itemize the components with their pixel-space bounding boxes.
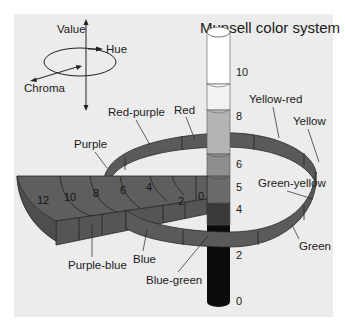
hue-label-blue-green: Blue-green (146, 274, 202, 286)
svg-text:12: 12 (37, 194, 49, 206)
svg-text:5: 5 (236, 181, 242, 193)
hue-label-purple: Purple (74, 138, 107, 150)
chroma-arrow-head-icon (76, 65, 82, 70)
axis-legend: Value Hue Chroma (24, 19, 127, 111)
chroma-label: Chroma (24, 82, 66, 94)
hue-label-yellow-red: Yellow-red (249, 93, 302, 105)
svg-text:2: 2 (178, 195, 184, 207)
hue-label-yellow: Yellow (293, 115, 327, 127)
hue-label-red-purple: Red-purple (108, 106, 165, 118)
svg-text:0: 0 (198, 190, 204, 202)
value-column (207, 27, 230, 307)
munsell-diagram: Value Hue Chroma Munsell color system 10… (0, 0, 345, 332)
svg-text:8: 8 (236, 110, 242, 122)
svg-text:6: 6 (120, 184, 126, 196)
value-scale: 10 8 6 5 4 2 0 (236, 66, 248, 307)
svg-text:0: 0 (236, 295, 242, 307)
value-arrow-down-icon (84, 105, 89, 111)
svg-text:8: 8 (93, 187, 99, 199)
svg-text:10: 10 (64, 191, 76, 203)
hue-label-green-yellow: Green-yellow (258, 177, 326, 189)
hue-label-red: Red (174, 104, 195, 116)
hue-label-purple-blue: Purple-blue (68, 259, 127, 271)
svg-text:4: 4 (146, 181, 152, 193)
svg-text:6: 6 (236, 158, 242, 170)
svg-text:10: 10 (236, 66, 248, 78)
hue-label-green: Green (299, 240, 331, 252)
value-label: Value (57, 23, 86, 35)
hue-label-blue: Blue (133, 253, 156, 265)
svg-text:4: 4 (236, 203, 242, 215)
hue-label: Hue (106, 43, 127, 55)
svg-text:2: 2 (236, 249, 242, 261)
